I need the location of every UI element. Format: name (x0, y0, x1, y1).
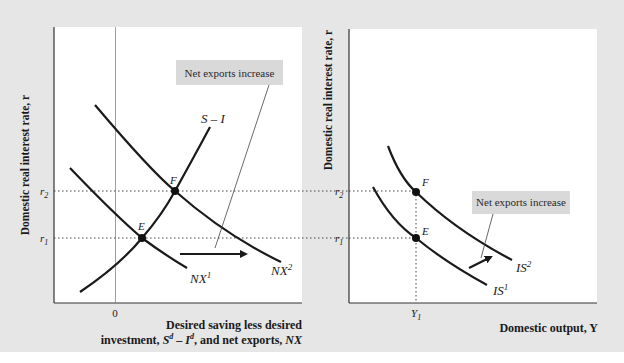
left-callout-text: Net exports increase (185, 67, 275, 79)
left-x-axis-label-line2: investment, Sd – Id, and net exports, NX (101, 332, 303, 347)
point-e-left-label: E (137, 220, 145, 232)
left-r1-tick: r1 (40, 232, 48, 247)
right-callout-text: Net exports increase (476, 196, 566, 208)
left-y-axis-label: Domestic real interest rate, r (19, 95, 31, 235)
right-x-axis-label: Domestic output, Y (499, 321, 598, 335)
right-plot-area (349, 29, 597, 303)
point-f-left (171, 187, 179, 195)
point-e-left (138, 234, 146, 242)
point-f-left-label: F (169, 174, 177, 186)
point-e-right-label: E (421, 225, 429, 237)
y1-tick: Y1 (411, 307, 421, 322)
left-zero-tick: 0 (112, 307, 118, 319)
right-r1-tick: r1 (335, 232, 343, 247)
saving-investment-label: S – I (201, 111, 226, 126)
right-panel: Net exports increase F E IS2 IS1 r2 r1 Y… (322, 29, 598, 335)
point-f-right-label: F (421, 176, 429, 188)
right-y-axis-label: Domestic real interest rate, r (322, 30, 334, 170)
point-e-right (412, 234, 420, 242)
right-r2-tick: r2 (335, 185, 343, 200)
diagram: Net exports increase E F S – I NX1 NX2 r… (0, 0, 624, 363)
left-r2-tick: r2 (40, 185, 48, 200)
left-x-axis-label-line1: Desired saving less desired (166, 318, 302, 332)
point-f-right (412, 188, 420, 196)
